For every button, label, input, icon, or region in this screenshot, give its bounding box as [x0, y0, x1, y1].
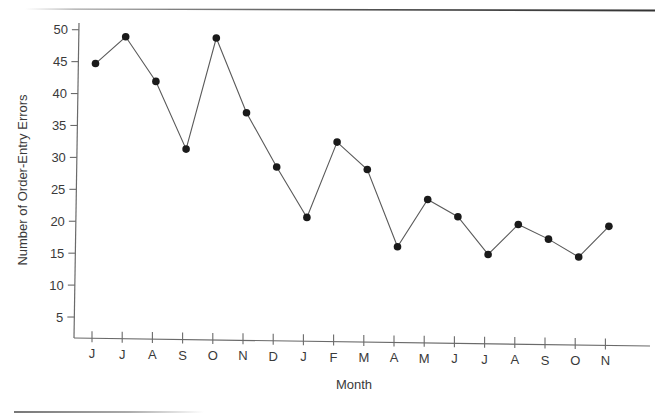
data-point	[364, 166, 372, 174]
x-tick-label: J	[119, 347, 126, 362]
data-point	[92, 60, 100, 68]
y-tick-label: 25	[51, 182, 65, 197]
y-tick-label: 45	[53, 54, 67, 69]
series-line	[96, 37, 609, 257]
data-point	[303, 214, 311, 222]
bottom-rule	[14, 411, 204, 413]
x-axis-ticks: JJASONDJFMAMJJASON	[89, 331, 610, 368]
y-tick-label: 35	[52, 118, 66, 133]
top-rule	[25, 9, 655, 12]
y-tick-label: 40	[52, 86, 66, 101]
data-point	[122, 33, 130, 41]
data-point	[575, 253, 583, 261]
data-point	[515, 221, 523, 229]
x-tick-label: J	[89, 346, 96, 361]
y-tick-label: 50	[53, 22, 67, 37]
x-axis-title: Month	[336, 377, 372, 392]
data-point	[243, 109, 251, 117]
x-axis	[74, 338, 650, 346]
x-tick-label: J	[481, 352, 488, 367]
y-axis	[74, 23, 79, 338]
y-tick-label: 20	[50, 214, 64, 229]
x-tick-label: M	[419, 351, 430, 366]
x-tick-label: O	[208, 348, 218, 363]
data-point	[182, 145, 190, 153]
x-tick-label: A	[510, 352, 519, 367]
x-tick-label: S	[541, 353, 550, 368]
y-tick-label: 10	[49, 278, 63, 293]
data-point	[213, 34, 221, 42]
x-tick-label: J	[451, 351, 458, 366]
x-tick-label: S	[178, 348, 187, 363]
data-point	[484, 251, 492, 259]
data-point	[333, 138, 341, 146]
x-tick-label: F	[330, 350, 338, 365]
data-point	[545, 235, 553, 243]
y-axis-title: Number of Order-Entry Errors	[15, 94, 30, 266]
x-tick-label: O	[570, 353, 580, 368]
x-tick-label: A	[390, 350, 399, 365]
data-markers	[92, 33, 613, 261]
data-point	[424, 196, 432, 204]
data-point	[152, 78, 160, 86]
line-chart: Number of Order-Entry Errors 51015202530…	[0, 0, 658, 414]
y-tick-label: 15	[50, 246, 64, 261]
data-point	[454, 213, 462, 221]
x-tick-label: N	[601, 353, 610, 368]
data-point	[273, 163, 281, 171]
x-tick-label: M	[358, 350, 369, 365]
x-tick-label: N	[238, 348, 247, 363]
data-point	[605, 223, 613, 231]
data-point	[394, 243, 402, 251]
y-tick-label: 30	[51, 150, 65, 165]
x-tick-label: J	[300, 349, 307, 364]
y-tick-label: 5	[56, 310, 63, 325]
x-tick-label: D	[269, 349, 278, 364]
x-tick-label: A	[148, 347, 157, 362]
